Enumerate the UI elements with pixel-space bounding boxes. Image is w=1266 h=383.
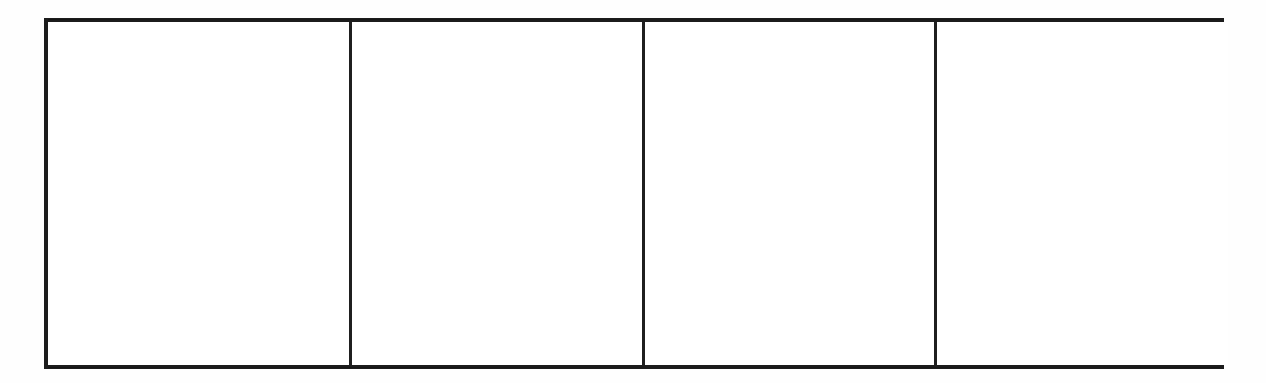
table-cell-3[interactable]: [642, 22, 934, 365]
frame-bottom-rule-ink: [48, 367, 1220, 368]
table-cell-1[interactable]: [48, 22, 349, 365]
page-surface: [0, 0, 1266, 383]
table-cell-4[interactable]: [934, 22, 1228, 365]
table-frame: [44, 18, 1224, 369]
frame-top-rule-ink: [48, 19, 1220, 20]
table-cell-2[interactable]: [349, 22, 642, 365]
